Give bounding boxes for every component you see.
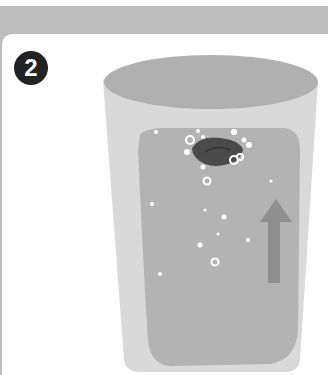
glass-rim: [104, 55, 318, 109]
glass-illustration: [0, 0, 328, 375]
